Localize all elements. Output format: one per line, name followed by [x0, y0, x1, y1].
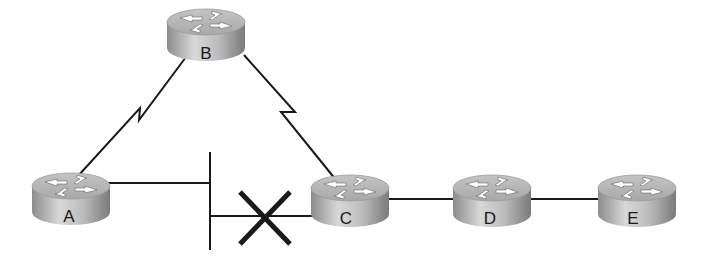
network-diagram: A B C D E	[0, 0, 705, 271]
router-label-c: C	[340, 209, 352, 228]
router-label-e: E	[627, 209, 638, 228]
link-a-b-serial	[78, 57, 186, 176]
router-label-b: B	[200, 44, 211, 63]
router-e: E	[598, 175, 676, 228]
router-c: C	[311, 175, 389, 228]
router-label-a: A	[63, 207, 75, 226]
link-b-c-serial	[244, 55, 336, 180]
router-b: B	[167, 9, 245, 63]
failure-x-icon	[240, 192, 290, 244]
router-label-d: D	[484, 209, 496, 228]
router-d: D	[453, 175, 531, 228]
router-a: A	[32, 173, 110, 226]
